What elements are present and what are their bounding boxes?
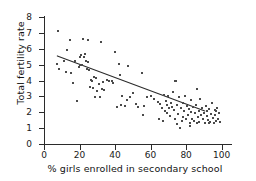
data-point [124,105,126,107]
data-point [171,106,173,108]
data-point [76,100,78,102]
data-point [158,118,160,120]
data-point [198,121,200,123]
data-point [162,120,164,122]
data-point [172,91,174,93]
data-point [103,89,105,91]
data-point [114,51,116,53]
data-point [216,107,218,109]
data-point [57,30,59,32]
data-point [116,106,118,108]
data-point [165,100,167,102]
x-axis-label: % girls enrolled in secondary school [30,164,240,174]
data-point [202,118,204,120]
data-point [141,72,143,74]
data-point [150,95,152,97]
data-point [192,106,194,108]
data-point [129,96,131,98]
data-point [120,104,122,106]
data-point [186,105,188,107]
data-point [84,53,86,55]
data-point [94,96,96,98]
data-point [176,123,178,125]
data-point [190,99,192,101]
y-tick-label-0: 0 [10,140,32,149]
data-point [198,110,200,112]
data-point [166,112,168,114]
data-point [112,82,114,84]
data-point [69,39,71,41]
data-point [199,98,201,100]
data-point [189,122,191,124]
data-point [118,63,120,65]
data-point [88,69,90,71]
data-point [65,71,67,73]
data-point [100,41,102,43]
data-point [181,120,183,122]
data-point [79,56,81,58]
data-point [196,88,198,90]
data-point [121,95,123,97]
data-point [178,96,180,98]
data-point [159,103,161,105]
data-point [194,112,196,114]
data-point [189,125,191,127]
data-point [176,104,178,106]
data-point [206,115,208,117]
data-point [215,110,217,112]
data-point [83,56,85,58]
data-point [205,105,207,107]
data-point [87,39,89,41]
data-point [210,113,212,115]
data-point [177,113,179,115]
data-point [190,111,192,113]
data-point [82,38,84,40]
x-tick-label-100: 100 [210,151,234,160]
data-point [87,61,89,63]
data-point [197,116,199,118]
data-point [187,114,189,116]
data-point [74,60,76,62]
data-point [58,68,60,70]
data-point [98,83,100,85]
x-tick-label-0: 0 [32,151,56,160]
data-point [201,107,203,109]
x-tick-label-20: 20 [68,151,92,160]
data-point [66,49,68,51]
data-point [212,117,214,119]
data-point [95,77,97,79]
data-point [180,107,182,109]
data-point [219,121,221,123]
data-point [96,90,98,92]
data-point [167,95,169,97]
data-point [132,92,134,94]
data-point [135,103,137,105]
data-point [102,81,104,83]
x-tick-label-60: 60 [139,151,163,160]
data-point [126,99,128,101]
data-point [161,107,163,109]
data-point [72,82,74,84]
x-tick-label-80: 80 [174,151,198,160]
plot-area [44,17,227,144]
data-point [81,64,83,66]
regression-line [44,17,227,144]
data-point [137,106,139,108]
y-axis-label: Total fertility rate [16,0,26,128]
data-point [153,98,155,100]
data-point [211,102,213,104]
data-point [174,118,176,120]
data-point [179,127,181,129]
data-point [56,63,58,65]
data-point [206,110,208,112]
x-tick-label-40: 40 [103,151,127,160]
data-point [214,114,216,116]
data-point [166,104,168,106]
data-point [127,65,129,67]
data-point [63,60,65,62]
data-point [184,95,186,97]
data-point [146,96,148,98]
data-point [119,74,121,76]
data-point [208,122,210,124]
data-point [175,80,177,82]
